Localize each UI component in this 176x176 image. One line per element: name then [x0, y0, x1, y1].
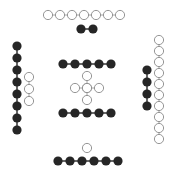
open-dot: [24, 72, 33, 81]
open-dot: [94, 83, 103, 92]
open-dot: [43, 10, 52, 19]
bottom-filled-row-group: [53, 156, 122, 165]
open-dot: [82, 95, 91, 104]
filled-dot: [76, 24, 85, 33]
filled-dot: [142, 65, 151, 74]
filled-dot: [88, 24, 97, 33]
dot-pattern-diagram: [0, 0, 176, 176]
open-dot: [70, 83, 79, 92]
filled-dot: [113, 156, 122, 165]
filled-dot: [106, 108, 115, 117]
open-dot: [24, 96, 33, 105]
top-filled-pair-group: [76, 24, 97, 33]
open-dot: [154, 57, 163, 66]
open-dot: [82, 143, 91, 152]
filled-dot: [77, 156, 86, 165]
top-open-row-group: [43, 10, 124, 19]
open-dot: [67, 10, 76, 19]
filled-dot: [82, 59, 91, 68]
left-open-column-group: [24, 72, 33, 105]
open-dot: [154, 123, 163, 132]
center-bottom-filled-row-group: [58, 108, 115, 117]
bottom-open-single-group: [82, 143, 91, 152]
open-dot: [154, 68, 163, 77]
left-filled-column-group: [12, 41, 21, 134]
filled-dot: [142, 101, 151, 110]
open-dot: [154, 46, 163, 55]
filled-dot: [65, 156, 74, 165]
open-dot: [82, 71, 91, 80]
open-dot: [79, 10, 88, 19]
open-dot: [154, 35, 163, 44]
filled-dot: [142, 89, 151, 98]
filled-dot: [89, 156, 98, 165]
open-dot: [154, 79, 163, 88]
filled-dot: [12, 125, 21, 134]
right-filled-column-group: [142, 65, 151, 110]
filled-dot: [12, 65, 21, 74]
open-dot: [103, 10, 112, 19]
filled-dot: [12, 89, 21, 98]
filled-dot: [12, 77, 21, 86]
right-open-column-group: [154, 35, 163, 143]
filled-dot: [58, 59, 67, 68]
filled-dot: [12, 101, 21, 110]
filled-dot: [106, 59, 115, 68]
filled-dot: [101, 156, 110, 165]
filled-dot: [94, 59, 103, 68]
open-dot: [91, 10, 100, 19]
open-dot: [82, 83, 91, 92]
filled-dot: [53, 156, 62, 165]
filled-dot: [70, 59, 79, 68]
filled-dot: [12, 41, 21, 50]
open-dot: [55, 10, 64, 19]
open-dot: [154, 112, 163, 121]
open-dot: [154, 134, 163, 143]
open-dot: [154, 90, 163, 99]
open-dot: [154, 101, 163, 110]
center-top-filled-row-group: [58, 59, 115, 68]
center-open-cross-horizontal-group: [70, 83, 103, 92]
filled-dot: [142, 77, 151, 86]
filled-dot: [94, 108, 103, 117]
dot-pattern-svg: [0, 0, 176, 176]
open-dot: [115, 10, 124, 19]
filled-dot: [58, 108, 67, 117]
filled-dot: [82, 108, 91, 117]
open-dot: [24, 84, 33, 93]
filled-dot: [12, 53, 21, 62]
filled-dot: [70, 108, 79, 117]
filled-dot: [12, 113, 21, 122]
